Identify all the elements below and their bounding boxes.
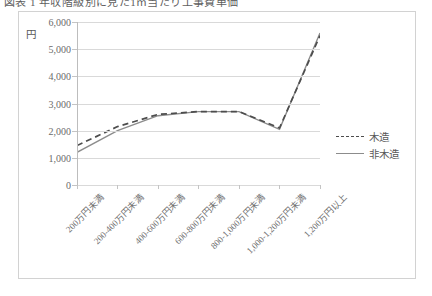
x-tick	[279, 185, 280, 189]
gridline	[77, 49, 320, 50]
y-tick-label: 1,000	[49, 153, 72, 164]
series-line-wooden	[77, 36, 320, 146]
x-tick	[77, 185, 78, 189]
y-axis-tick-labels: 6,000 5,000 4,000 3,000 2,000 1,000 0	[18, 0, 71, 296]
x-tick	[320, 185, 321, 189]
plot-area	[77, 22, 320, 185]
gridline	[77, 76, 320, 77]
legend: 木造 非木造	[336, 128, 399, 162]
x-tick	[117, 185, 118, 189]
series-line-non-wooden	[77, 33, 320, 152]
gridline	[77, 131, 320, 132]
y-tick-label: 5,000	[49, 44, 72, 55]
legend-item-non-wooden: 非木造	[336, 145, 399, 162]
gridline	[77, 158, 320, 159]
gridline	[77, 104, 320, 105]
y-tick-label: 0	[66, 180, 71, 191]
legend-label: 木造	[369, 129, 389, 144]
y-tick-label: 6,000	[49, 17, 72, 28]
y-tick-label: 4,000	[49, 71, 72, 82]
legend-swatch-dashed-icon	[336, 132, 364, 142]
x-tick	[239, 185, 240, 189]
gridline	[77, 22, 320, 23]
y-axis-line	[77, 22, 78, 185]
legend-label: 非木造	[369, 146, 399, 161]
x-tick	[198, 185, 199, 189]
legend-swatch-solid-icon	[336, 149, 364, 159]
legend-item-wooden: 木造	[336, 128, 399, 145]
x-tick	[158, 185, 159, 189]
y-tick-label: 3,000	[49, 99, 72, 110]
y-tick-label: 2,000	[49, 126, 72, 137]
figure-container: 図表 1 年収階級別に見た1㎡当たり工事費単価 円 6,000 5,000 4,…	[0, 0, 432, 296]
